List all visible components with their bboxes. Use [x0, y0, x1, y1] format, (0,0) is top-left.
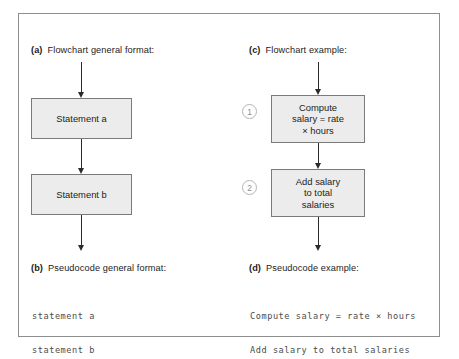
arrow-compute-salary-to-add-salary	[314, 143, 323, 169]
caption-b-title: Pseudocode general format:	[48, 263, 166, 273]
process-box-add-salary-line-3: salaries	[296, 199, 340, 211]
caption-b-tag: (b)	[31, 263, 43, 273]
arrow-head-icon	[78, 245, 84, 251]
step-number-badge-2: 2	[242, 180, 257, 195]
step-number-label: 1	[247, 107, 252, 117]
step-number-label: 2	[247, 183, 252, 193]
process-box-add-salary-line-2: to total	[296, 187, 340, 199]
process-box-statement-b: Statement b	[31, 174, 132, 215]
caption-c-tag: (c)	[249, 45, 261, 55]
process-box-statement-b-line-1: Statement b	[56, 189, 107, 201]
caption-d: (d)Pseudocode example:	[249, 263, 359, 273]
arrow-out-of-statement-b	[77, 215, 86, 251]
figure-frame: (a)Flowchart general format: Statement a…	[18, 13, 440, 337]
pseudocode-line: statement a	[32, 311, 95, 322]
arrow-statement-a-to-statement-b	[77, 139, 86, 174]
caption-a-title: Flowchart general format:	[48, 45, 155, 55]
arrow-shaft	[81, 139, 82, 168]
process-box-statement-a: Statement a	[31, 98, 132, 139]
pseudocode-line: statement b	[32, 345, 95, 356]
process-box-compute-salary-line-1: Compute	[292, 102, 344, 114]
process-box-compute-salary-line-2: salary = rate	[292, 113, 344, 125]
process-box-compute-salary: Compute salary = rate × hours	[271, 95, 365, 143]
arrow-out-of-add-salary	[314, 217, 323, 251]
arrow-shaft	[318, 217, 319, 245]
caption-a-tag: (a)	[31, 45, 43, 55]
arrow-into-statement-a	[77, 62, 86, 98]
pseudocode-example: Compute salary = rate × hours Add salary…	[250, 288, 416, 359]
column-example: (c)Flowchart example: 1 Compute salary =…	[237, 14, 441, 336]
caption-c: (c)Flowchart example:	[249, 45, 347, 55]
pseudocode-line: Add salary to total salaries	[250, 345, 416, 356]
column-general-format: (a)Flowchart general format: Statement a…	[19, 14, 237, 336]
caption-d-title: Pseudocode example:	[266, 263, 359, 273]
arrow-head-icon	[315, 245, 321, 251]
arrow-shaft	[318, 62, 319, 89]
step-number-badge-1: 1	[242, 104, 257, 119]
caption-d-tag: (d)	[249, 263, 261, 273]
process-box-add-salary-line-1: Add salary	[296, 176, 340, 188]
pseudocode-line: Compute salary = rate × hours	[250, 311, 416, 322]
process-box-compute-salary-line-3: × hours	[292, 125, 344, 137]
pseudocode-general-format: statement a statement b	[32, 288, 95, 359]
caption-a: (a)Flowchart general format:	[31, 45, 154, 55]
caption-b: (b)Pseudocode general format:	[31, 263, 166, 273]
arrow-shaft	[81, 62, 82, 92]
process-box-add-salary: Add salary to total salaries	[271, 169, 365, 217]
process-box-statement-a-line-1: Statement a	[56, 113, 107, 125]
arrow-shaft	[318, 143, 319, 163]
arrow-shaft	[81, 215, 82, 245]
arrow-into-compute-salary	[314, 62, 323, 95]
caption-c-title: Flowchart example:	[266, 45, 347, 55]
